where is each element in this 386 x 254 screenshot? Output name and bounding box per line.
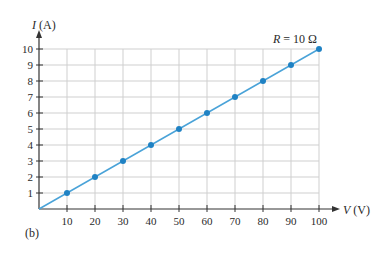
resistance-annotation: R = 10 Ω [272,32,317,46]
x-axis-label: V (V) [343,203,370,217]
chart: 10203040506070809010012345678910 I (A) V… [0,0,386,254]
x-tick-label: 80 [258,215,270,227]
data-point-marker [204,110,210,116]
data-point-marker [120,158,126,164]
data-point-marker [176,126,182,132]
x-tick-label: 60 [202,215,214,227]
y-tick-label: 1 [28,187,34,199]
x-tick-label: 30 [118,215,130,227]
y-axis-label: I (A) [31,18,56,32]
x-tick-label: 40 [146,215,158,227]
x-tick-label: 90 [286,215,298,227]
data-point-marker [316,46,322,52]
x-tick-label: 100 [311,215,328,227]
data-point-marker [232,94,238,100]
x-tick-label: 10 [62,215,74,227]
x-tick-label: 70 [230,215,242,227]
y-tick-label: 9 [28,59,34,71]
y-tick-label: 8 [28,75,34,87]
x-tick-label: 20 [90,215,102,227]
y-tick-label: 6 [28,107,34,119]
data-point-marker [64,190,70,196]
x-axis-arrow-icon [332,206,340,212]
data-point-marker [260,78,266,84]
y-tick-label: 10 [22,43,34,55]
data-point-marker [92,174,98,180]
data-series [39,46,322,209]
y-tick-label: 4 [28,139,34,151]
y-tick-label: 2 [28,171,34,183]
y-tick-label: 3 [28,155,34,167]
x-tick-label: 50 [174,215,186,227]
data-point-marker [288,62,294,68]
y-tick-label: 7 [28,91,34,103]
y-tick-label: 5 [28,123,34,135]
panel-label: (b) [25,226,39,240]
data-point-marker [148,142,154,148]
